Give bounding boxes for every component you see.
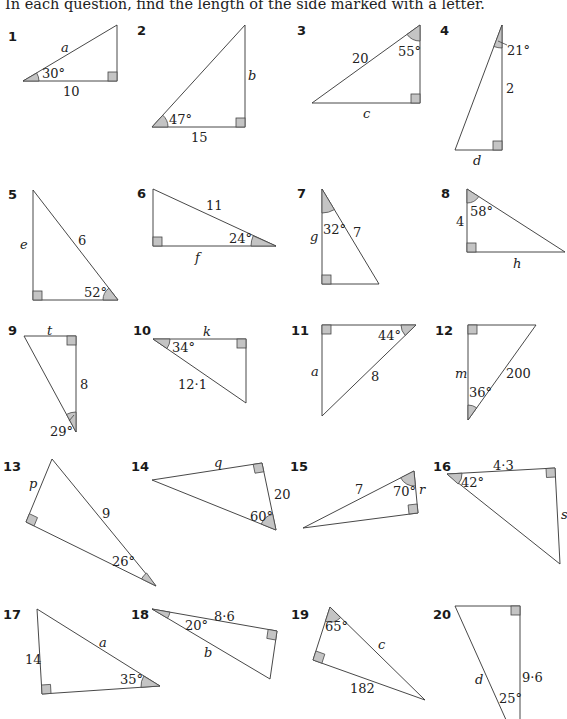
unknown-side-label: c	[378, 637, 386, 652]
question-8: 8 58° 4 h	[441, 186, 565, 271]
side-label: 20	[352, 51, 369, 66]
unknown-side-label: h	[513, 256, 521, 271]
question-number: 10	[133, 323, 151, 338]
right-angle-marker	[322, 325, 331, 334]
question-number: 2	[137, 23, 146, 38]
right-angle-marker	[153, 237, 162, 246]
question-5: 5 e 6 52°	[8, 187, 118, 300]
side-label: 12·1	[178, 377, 207, 392]
angle-label: 35°	[120, 672, 143, 687]
angle-label: 26°	[112, 554, 135, 569]
question-2: 2 b 47° 15	[137, 23, 256, 145]
question-12: 12 m 200 36°	[435, 323, 536, 420]
angle-label: 42°	[461, 475, 484, 490]
side-label: 10	[63, 84, 80, 99]
unknown-side-label: b	[248, 68, 256, 83]
angle-label: 70°	[393, 484, 416, 499]
angle-label: 44°	[378, 328, 401, 343]
side-label: 6	[78, 233, 86, 248]
side-label: 15	[191, 130, 208, 145]
triangle	[152, 25, 245, 127]
right-angle-marker	[33, 291, 42, 300]
triangle	[467, 189, 565, 252]
side-label: 8	[371, 369, 379, 384]
angle-label: 29°	[50, 424, 73, 439]
side-label: 9	[102, 506, 110, 521]
question-number: 8	[441, 186, 450, 201]
side-label: 4·3	[493, 458, 514, 473]
angle-label: 25°	[499, 691, 522, 706]
angle-label: 32°	[323, 222, 346, 237]
triangle	[23, 25, 117, 81]
angle-marker	[447, 473, 462, 484]
question-number: 11	[291, 323, 309, 338]
angle-label: 60°	[250, 509, 273, 524]
unknown-side-label: g	[310, 229, 318, 244]
side-label: 8·6	[214, 609, 235, 624]
question-4: 4 21° 2 d	[440, 23, 530, 168]
question-15: 15 7 70° r	[290, 459, 426, 528]
question-6: 6 11 24° f	[137, 186, 276, 265]
angle-marker	[322, 189, 334, 213]
unknown-side-label: d	[475, 672, 483, 687]
angle-marker	[407, 25, 420, 41]
unknown-side-label: a	[61, 40, 69, 55]
question-16: 16 4·3 42° s	[433, 458, 567, 564]
question-number: 17	[3, 607, 21, 622]
question-number: 6	[137, 186, 146, 201]
side-label: 11	[206, 198, 223, 213]
unknown-side-label: r	[419, 482, 426, 497]
question-7: 7 32° 7 g	[297, 186, 379, 284]
side-label: 4	[456, 214, 464, 229]
question-number: 1	[8, 29, 17, 44]
side-label: 182	[350, 681, 375, 696]
unknown-side-label: f	[194, 250, 202, 265]
angle-label: 65°	[325, 619, 348, 634]
question-number: 4	[440, 23, 449, 38]
question-number: 14	[131, 459, 149, 474]
right-angle-marker	[511, 606, 520, 615]
right-angle-marker	[411, 94, 420, 103]
question-1: 1 a 30° 10	[8, 25, 117, 99]
right-angle-marker	[468, 325, 477, 334]
angle-marker	[153, 339, 170, 349]
triangle	[26, 459, 156, 586]
unknown-side-label: k	[203, 324, 211, 339]
unknown-side-label: s	[561, 507, 567, 522]
triangle	[322, 325, 416, 416]
unknown-side-label: a	[311, 364, 319, 379]
unknown-side-label: a	[99, 635, 107, 650]
right-angle-marker	[236, 118, 245, 127]
angle-label: 20°	[185, 618, 208, 633]
angle-marker	[23, 73, 39, 81]
right-angle-marker	[408, 504, 418, 514]
angle-label: 34°	[172, 340, 195, 355]
angle-label: 24°	[229, 231, 252, 246]
angle-label: 52°	[84, 285, 107, 300]
unknown-side-label: t	[47, 323, 53, 338]
side-label: 14	[25, 652, 42, 667]
angle-marker	[401, 325, 416, 335]
angle-label: 55°	[398, 44, 421, 59]
right-angle-marker	[322, 275, 331, 284]
question-number: 18	[131, 607, 149, 622]
question-number: 5	[8, 187, 17, 202]
angle-label: 58°	[470, 204, 493, 219]
angle-label: 21°	[507, 43, 530, 58]
right-angle-marker	[26, 514, 38, 526]
angle-marker	[152, 115, 168, 127]
unknown-side-label: c	[363, 106, 371, 121]
question-number: 7	[297, 186, 306, 201]
triangle	[33, 190, 118, 300]
unknown-side-label: e	[20, 237, 28, 252]
question-number: 13	[3, 459, 21, 474]
right-angle-marker	[546, 468, 556, 478]
unknown-side-label: d	[473, 153, 481, 168]
question-number: 16	[433, 459, 451, 474]
angle-marker	[467, 189, 479, 203]
question-3: 3 20 55° c	[297, 23, 421, 121]
right-angle-marker	[313, 651, 325, 663]
question-13: 13 p 9 26°	[3, 459, 156, 586]
right-angle-marker	[493, 141, 502, 150]
angle-marker	[468, 405, 477, 420]
